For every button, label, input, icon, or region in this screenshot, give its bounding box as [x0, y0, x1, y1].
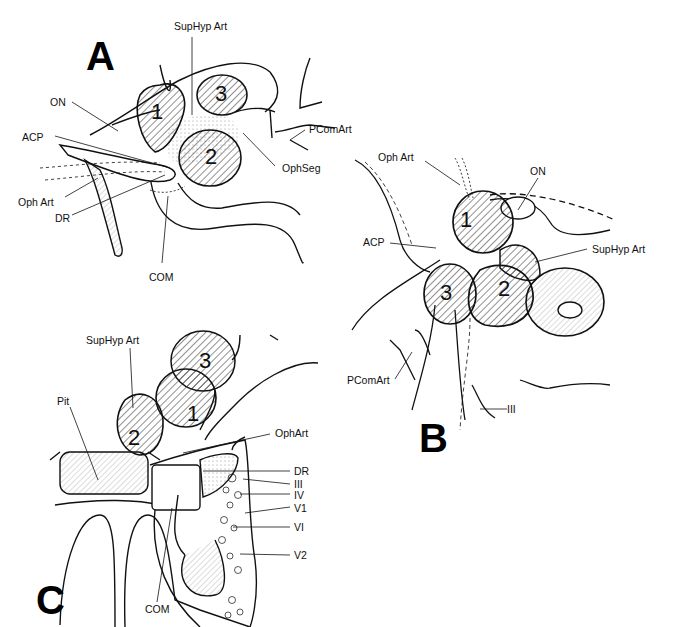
- panel-c-aneurysm-1: [156, 369, 216, 427]
- panel-a-label-dr: DR: [55, 213, 70, 224]
- panel-a-label-acp: ACP: [22, 132, 44, 143]
- panel-b-number-1: 1: [460, 209, 472, 231]
- panel-b-label-suphypart: SupHyp Art: [592, 244, 645, 255]
- panel-c-number-1: 1: [187, 403, 199, 425]
- panel-c-label-v2: V2: [294, 550, 307, 561]
- panel-a-number-3: 3: [215, 83, 227, 105]
- panel-a-label-ophart: Oph Art: [18, 197, 54, 208]
- panel-c-label-ophart: OphArt: [275, 428, 308, 439]
- panel-c-number-2: 2: [128, 427, 140, 449]
- panel-b-number-2: 2: [498, 278, 510, 300]
- panel-b-label-acp: ACP: [363, 237, 385, 248]
- panel-c-label-iii: III: [294, 479, 303, 490]
- panel-c-label-pit: Pit: [57, 396, 69, 407]
- panel-c-number-3: 3: [199, 350, 211, 372]
- panel-letter-a: A: [86, 36, 115, 76]
- anatomical-illustration: [0, 0, 674, 627]
- panel-a-number-1: 1: [151, 101, 163, 123]
- panel-c-label-vi: VI: [294, 522, 304, 533]
- panel-letter-c: C: [36, 580, 65, 620]
- panel-b-label-iii: III: [507, 404, 516, 415]
- panel-b-label-on: ON: [530, 166, 546, 177]
- panel-letter-b: B: [419, 418, 448, 458]
- panel-c-label-suphypart: SupHyp Art: [86, 335, 139, 346]
- panel-c-label-dr: DR: [294, 466, 309, 477]
- panel-b-number-3: 3: [440, 282, 452, 304]
- panel-a-label-pcomart: PComArt: [309, 124, 352, 135]
- panel-a-number-2: 2: [205, 146, 217, 168]
- panel-a-label-suphypart: SupHyp Art: [174, 21, 227, 32]
- panel-c-label-iv: IV: [294, 490, 304, 501]
- panel-a-label-on: ON: [50, 97, 66, 108]
- panel-b-label-pcomart: PComArt: [347, 375, 390, 386]
- panel-a-label-com: COM: [149, 272, 174, 283]
- panel-c-label-com: COM: [145, 604, 170, 615]
- panel-c-label-v1: V1: [294, 503, 307, 514]
- panel-b-label-ophart: Oph Art: [378, 152, 414, 163]
- panel-a-label-ophseg: OphSeg: [282, 163, 321, 174]
